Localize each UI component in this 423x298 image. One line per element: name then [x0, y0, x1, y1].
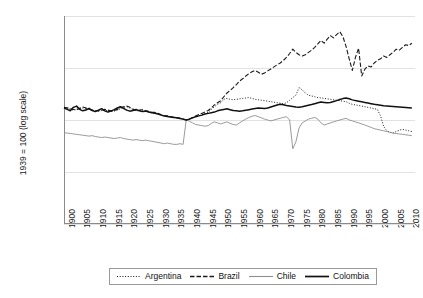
chart-container: 1939 = 100 (log scale) 100001000100101 1…	[0, 0, 423, 298]
data-series-group	[64, 16, 415, 224]
legend-item-colombia[interactable]: Colombia	[305, 272, 369, 281]
legend-item-argentina[interactable]: Argentina	[117, 272, 181, 281]
legend-label: Chile	[277, 272, 296, 281]
series-line-brazil	[64, 32, 412, 120]
legend-swatch-brazil-icon	[190, 273, 214, 280]
legend-label: Argentina	[145, 272, 181, 281]
y-axis-title: 1939 = 100 (log scale)	[18, 53, 28, 213]
legend-label: Brazil	[218, 272, 239, 281]
chart-legend: ArgentinaBrazilChileColombia	[109, 268, 377, 285]
legend-label: Colombia	[333, 272, 369, 281]
legend-item-brazil[interactable]: Brazil	[190, 272, 239, 281]
legend-swatch-chile-icon	[249, 273, 273, 280]
gridline	[64, 224, 415, 225]
series-line-chile	[64, 116, 412, 149]
legend-swatch-colombia-icon	[305, 273, 329, 280]
legend-item-chile[interactable]: Chile	[249, 272, 296, 281]
plot-area	[64, 16, 415, 224]
series-line-colombia	[64, 98, 412, 120]
legend-swatch-argentina-icon	[117, 273, 141, 280]
